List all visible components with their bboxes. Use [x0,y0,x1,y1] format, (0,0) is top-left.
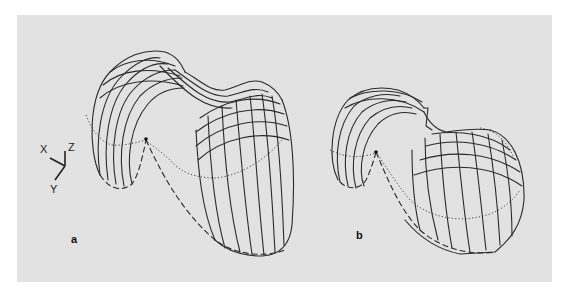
panel-label-b: b [356,229,363,241]
axis-x-label: X [40,143,48,155]
axis-y-label: Y [50,183,58,195]
panel-label-a: a [71,233,78,245]
axes-indicator: X Z Y [40,141,75,195]
figure-canvas: X Z Y [0,0,569,295]
axis-z-label: Z [68,141,75,153]
surface-a [86,51,294,256]
